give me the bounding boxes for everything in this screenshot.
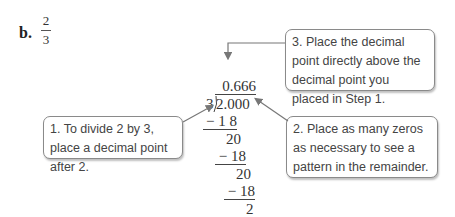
arrow-step-2: [256, 99, 288, 121]
arrow-step-3: [228, 43, 285, 58]
arrow-step-1: [183, 106, 212, 122]
arrows: [0, 0, 455, 217]
